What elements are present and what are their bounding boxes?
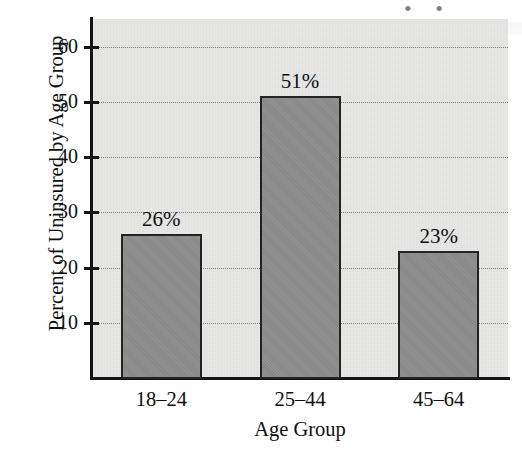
y-tick-label-10: 10: [38, 312, 78, 332]
x-category-label-18–24: 18–24: [91, 388, 231, 410]
y-axis-line: [90, 17, 93, 380]
y-tick-60: [84, 46, 99, 49]
y-tick-20: [84, 267, 99, 270]
bar-25–44: [260, 96, 341, 379]
y-tick-label-50: 50: [38, 91, 78, 111]
bar-18–24: [121, 234, 202, 379]
bar-value-label-45–64: 23%: [379, 225, 499, 247]
gridline-60: [92, 47, 508, 48]
x-category-label-25–44: 25–44: [230, 388, 370, 410]
y-tick-10: [84, 322, 99, 325]
bar-45–64: [398, 251, 479, 379]
bar-chart-figure: • • Percent of Uninsured by Age Group 10…: [0, 0, 522, 462]
x-category-label-45–64: 45–64: [369, 388, 509, 410]
y-axis-title: Percent of Uninsured by Age Group: [45, 14, 68, 354]
bar-value-label-25–44: 51%: [240, 70, 360, 92]
y-tick-label-60: 60: [38, 36, 78, 56]
y-tick-40: [84, 156, 99, 159]
x-axis-title: Age Group: [92, 418, 508, 441]
bar-value-label-18–24: 26%: [101, 208, 221, 230]
y-tick-label-20: 20: [38, 257, 78, 277]
y-tick-50: [84, 101, 99, 104]
y-tick-30: [84, 211, 99, 214]
y-tick-label-40: 40: [38, 146, 78, 166]
y-tick-label-30: 30: [38, 201, 78, 221]
scan-artifact-icon: • •: [404, 0, 522, 12]
